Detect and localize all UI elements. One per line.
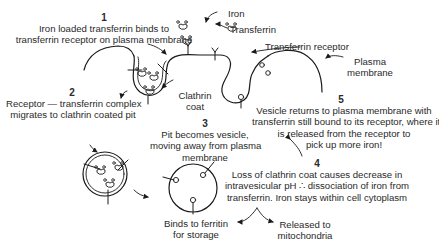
mito-line: mitochondria xyxy=(270,230,340,241)
step-4-line: transferrin. Iron stays within cell cyto… xyxy=(222,192,412,203)
iron-label: Iron xyxy=(228,8,245,19)
plasma-membrane-label: Plasma membrane xyxy=(340,56,400,79)
plasma-membrane-line2: membrane xyxy=(340,67,400,78)
transferrin-label: Transferrin xyxy=(230,24,276,35)
ferritin-storage-label: Binds to ferritin for storage xyxy=(160,218,232,241)
step-5-number: 5 xyxy=(331,94,351,105)
mitochondria-label: Released to mitochondria xyxy=(270,219,340,242)
step-3-text: Pit becomes vesicle, moving away from pl… xyxy=(150,129,260,163)
step-5-line: Vesicle returns to plasma membrane with xyxy=(252,105,436,116)
step-2-line: Receptor — transferrin complex xyxy=(6,98,140,109)
step-2-number: 2 xyxy=(62,87,82,98)
step-5-line: transferrin still bound to its receptor,… xyxy=(252,116,436,127)
step-2-text: Receptor — transferrin complex migrates … xyxy=(6,98,140,121)
step-3-number: 3 xyxy=(195,118,215,129)
storage-line: Binds to ferritin xyxy=(160,218,232,229)
mito-line: Released to xyxy=(270,219,340,230)
step-3-line: moving away from plasma xyxy=(150,140,260,151)
storage-line: for storage xyxy=(160,229,232,240)
step-4-text: Loss of clathrin coat causes decrease in… xyxy=(222,169,412,203)
plasma-membrane-line1: Plasma xyxy=(340,56,400,67)
step-1-line: transferrin receptor on plasma membrane xyxy=(14,34,194,45)
step-1-text: Iron loaded transferrin binds to transfe… xyxy=(14,23,194,46)
step-1-number: 1 xyxy=(94,12,114,23)
step-3-line: Pit becomes vesicle, xyxy=(150,129,260,140)
step-2-line: migrates to clathrin coated pit xyxy=(6,109,140,120)
step-4-line: intravesicular pH ∴ dissociation of iron… xyxy=(222,180,412,191)
step-5-line: pick up more iron! xyxy=(252,139,436,150)
step-5-line: is released from the receptor to xyxy=(252,128,436,139)
transferrin-receptor-label: Transferrin receptor xyxy=(265,41,349,52)
clathrin-coat-line2: coat xyxy=(172,101,218,112)
clathrin-coat-label: Clathrin coat xyxy=(172,90,218,113)
coated-vesicle xyxy=(83,152,128,204)
step-4-line: Loss of clathrin coat causes decrease in xyxy=(222,169,412,180)
step-4-number: 4 xyxy=(307,158,327,169)
step-1-line: Iron loaded transferrin binds to xyxy=(14,23,194,34)
step-5-text: Vesicle returns to plasma membrane with … xyxy=(252,105,436,151)
clathrin-coat-line1: Clathrin xyxy=(172,90,218,101)
step-3-line: membrane xyxy=(150,152,260,163)
uncoated-vesicle xyxy=(163,162,217,214)
